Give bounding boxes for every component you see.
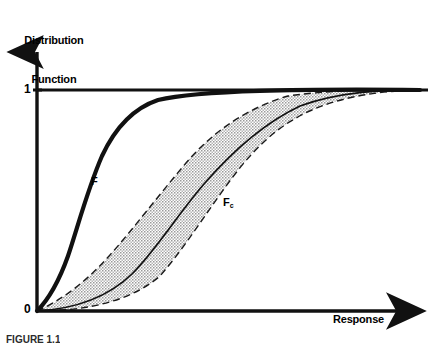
curve-label-F: F: [91, 175, 98, 187]
y-axis-title-line2: Function: [8, 73, 100, 86]
curve-label-Fc-subscript: c: [230, 202, 234, 209]
y-axis-title: Distribution Function: [8, 8, 100, 112]
y-tick-label-zero: 0: [24, 302, 31, 316]
y-axis-title-line1: Distribution: [8, 34, 100, 47]
curve-label-Fc: Fc: [223, 196, 234, 208]
figure-caption: FIGURE 1.1: [6, 334, 60, 345]
y-tick-label-one: 1: [24, 82, 31, 96]
x-axis-title: Response: [333, 313, 384, 325]
figure-root: Distribution Function Response 1 0 F Fc …: [0, 0, 435, 345]
curve-label-Fc-base: F: [223, 196, 230, 208]
